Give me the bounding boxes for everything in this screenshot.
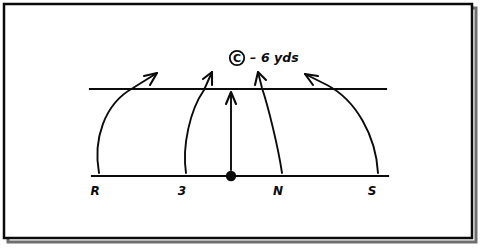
play-diagram-figure: C – 6 yds [0, 0, 480, 250]
diagram-canvas: C – 6 yds [0, 0, 480, 250]
coverage-distance: 6 yds [261, 50, 299, 65]
coverage-annotation: C – 6 yds [230, 50, 299, 65]
coverage-letter: C [233, 52, 241, 65]
position-label-N: N [273, 184, 283, 198]
position-label-3: 3 [178, 184, 186, 198]
ball-dot [226, 171, 236, 181]
position-label-R: R [90, 184, 99, 198]
outer-border [4, 4, 472, 238]
coverage-separator: – [250, 50, 256, 65]
position-label-S: S [368, 184, 377, 198]
